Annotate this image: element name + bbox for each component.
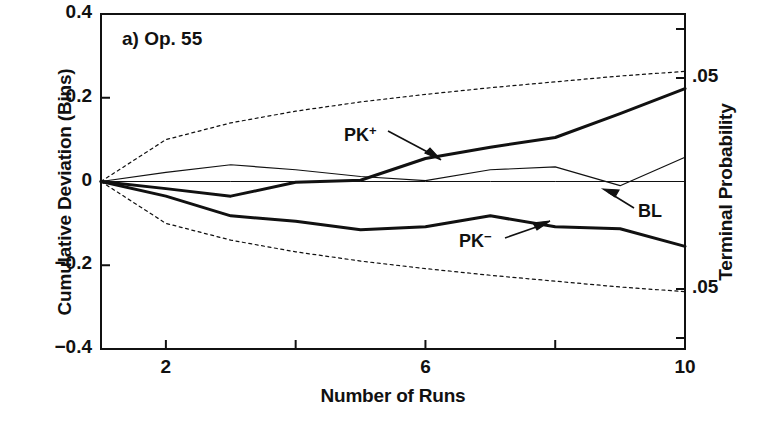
series-label-pk-minus: PK− [459, 229, 492, 252]
series-label-pk-plus-superscript: + [369, 123, 377, 138]
left-tick-label: 0.2 [22, 85, 92, 107]
series-label-bl: BL [638, 201, 662, 222]
series-label-pk-plus: PK+ [344, 123, 377, 146]
annotation-arrows [388, 131, 634, 238]
series-label-pk-minus-text: PK [459, 231, 484, 251]
series-label-pk-plus-text: PK [344, 125, 369, 145]
figure-panel: a) Op. 55 Cumulative Deviation (Bins) Te… [0, 0, 766, 423]
left-tick-label: 0 [22, 169, 92, 191]
series-label-pk-minus-superscript: − [484, 229, 492, 244]
bottom-tick-label: 6 [395, 356, 455, 378]
series-p-05-upper-envelope [101, 71, 685, 181]
series-p-05-lower-envelope [101, 182, 685, 292]
left-tick-label: −0.4 [22, 336, 92, 358]
bottom-tick-label: 2 [136, 356, 196, 378]
left-tick-label: 0.4 [22, 1, 92, 23]
panel-title: a) Op. 55 [122, 28, 202, 50]
data-series-group [101, 71, 685, 291]
bl-arrow-head [603, 189, 619, 197]
x-axis-title: Number of Runs [101, 385, 685, 407]
left-tick-label: −0.2 [22, 252, 92, 274]
series-pk [101, 89, 685, 197]
bottom-tick-label: 10 [655, 356, 715, 378]
right-tick-label: .05 [692, 65, 762, 87]
y-axis-left-title: Cumulative Deviation (Bins) [54, 22, 76, 362]
right-tick-label: .05 [692, 276, 762, 298]
